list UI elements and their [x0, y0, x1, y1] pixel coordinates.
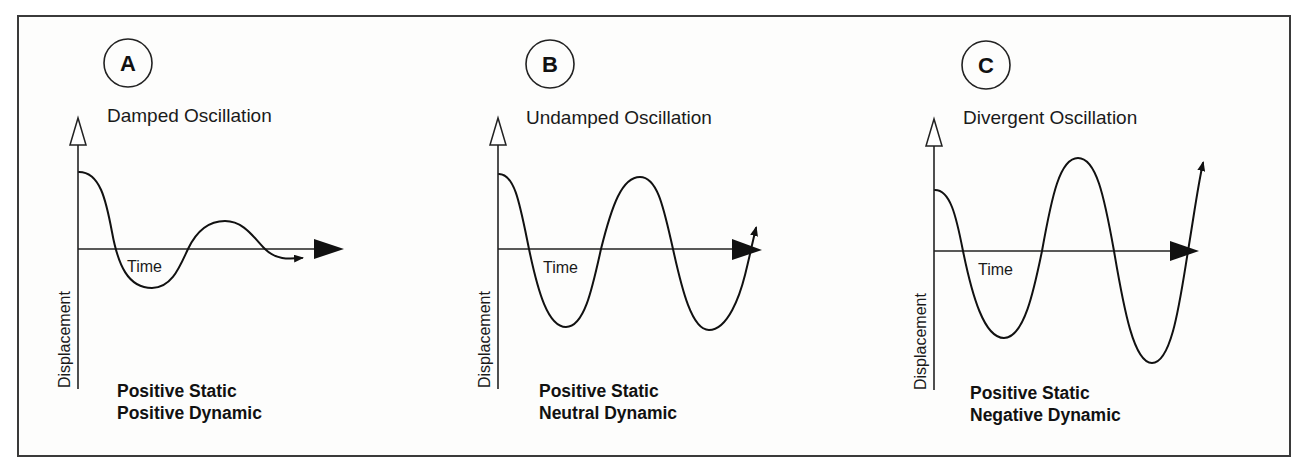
panel-letter-badge: B	[526, 40, 574, 88]
panel-title: Undamped Oscillation	[526, 107, 712, 128]
panel-letter-badge: C	[962, 41, 1010, 89]
y-axis-arrow-icon	[70, 118, 86, 145]
x-axis	[498, 239, 762, 260]
divergent-curve	[935, 158, 1203, 363]
panel-letter: A	[120, 51, 136, 76]
panel-title: Divergent Oscillation	[963, 107, 1137, 128]
x-axis-label: Time	[978, 261, 1013, 278]
y-axis-label: Displacement	[476, 291, 493, 388]
x-axis-arrow-icon	[314, 239, 344, 259]
oscillation-diagram: A Damped Oscillation Displacement Time P…	[0, 0, 1307, 475]
stability-caption-line2: Negative Dynamic	[970, 405, 1121, 425]
y-axis-arrow-icon	[926, 119, 942, 146]
y-axis-arrow-icon	[490, 118, 506, 145]
x-axis-label: Time	[127, 258, 162, 275]
x-axis-label: Time	[543, 259, 578, 276]
panel-c: C Divergent Oscillation Displacement Tim…	[912, 41, 1203, 425]
y-axis-label: Displacement	[56, 291, 73, 388]
undamped-curve	[499, 174, 756, 330]
panel-letter-badge: A	[104, 39, 152, 87]
stability-caption-line1: Positive Static	[970, 383, 1090, 403]
damped-curve	[79, 172, 302, 288]
panel-b: B Undamped Oscillation Displacement Time…	[476, 40, 762, 423]
y-axis-label: Displacement	[912, 293, 929, 390]
x-axis-arrow-icon	[732, 239, 762, 260]
panel-letter: B	[542, 52, 558, 77]
x-axis	[934, 241, 1199, 261]
x-axis-arrow-icon	[1170, 241, 1199, 261]
stability-caption-line1: Positive Static	[117, 381, 237, 401]
stability-caption-line2: Neutral Dynamic	[539, 403, 677, 423]
stability-caption-line2: Positive Dynamic	[117, 403, 262, 423]
panel-a: A Damped Oscillation Displacement Time P…	[56, 39, 344, 423]
panel-letter: C	[978, 53, 994, 78]
stability-caption-line1: Positive Static	[539, 381, 659, 401]
panel-title: Damped Oscillation	[107, 105, 272, 126]
